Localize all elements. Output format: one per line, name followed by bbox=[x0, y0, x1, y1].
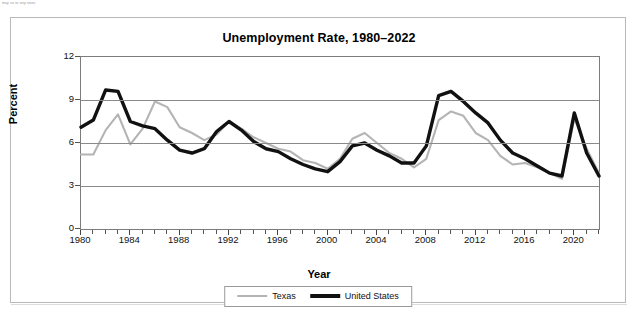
legend-label-united-states: United States bbox=[345, 291, 399, 301]
legend-item-texas[interactable]: Texas bbox=[237, 291, 296, 301]
x-axis-label-2020: 2020 bbox=[553, 234, 593, 245]
x-axis-labels: 1980198419881992199620002004200820122016… bbox=[80, 234, 600, 248]
gridline-6 bbox=[81, 143, 599, 144]
y-axis-title: Percent bbox=[7, 84, 19, 124]
y-axis-label-12: 12 bbox=[48, 50, 74, 61]
y-axis-label-9: 9 bbox=[48, 93, 74, 104]
x-axis-label-2008: 2008 bbox=[405, 234, 445, 245]
gridline-3 bbox=[81, 186, 599, 187]
legend-swatch-united-states-icon bbox=[310, 294, 340, 298]
chart-legend: Texas United States bbox=[224, 286, 412, 307]
series-line-texas bbox=[81, 101, 599, 178]
x-axis-label-1984: 1984 bbox=[109, 234, 149, 245]
x-axis-label-2004: 2004 bbox=[356, 234, 396, 245]
gridline-9 bbox=[81, 100, 599, 101]
y-axis-tick-9 bbox=[75, 99, 80, 100]
y-axis-label-6: 6 bbox=[48, 136, 74, 147]
x-axis-label-1996: 1996 bbox=[257, 234, 297, 245]
legend-label-texas: Texas bbox=[272, 291, 296, 301]
x-axis-label-1988: 1988 bbox=[159, 234, 199, 245]
y-axis-tick-12 bbox=[75, 56, 80, 57]
plot-area bbox=[80, 56, 600, 230]
y-axis-label-0: 0 bbox=[48, 222, 74, 233]
x-axis-label-2000: 2000 bbox=[307, 234, 347, 245]
legend-item-united-states[interactable]: United States bbox=[310, 291, 399, 301]
chart-title: Unemployment Rate, 1980–2022 bbox=[11, 31, 627, 45]
x-axis-label-1992: 1992 bbox=[208, 234, 248, 245]
x-axis-label-1980: 1980 bbox=[60, 234, 100, 245]
cropped-header-text: may us or any noos. bbox=[2, 1, 36, 7]
y-axis-tick-6 bbox=[75, 142, 80, 143]
y-axis-label-3: 3 bbox=[48, 179, 74, 190]
x-axis-label-2012: 2012 bbox=[455, 234, 495, 245]
chart-card: Unemployment Rate, 1980–2022 Percent 036… bbox=[10, 17, 626, 303]
y-axis-tick-0 bbox=[75, 228, 80, 229]
y-axis-tick-3 bbox=[75, 185, 80, 186]
screenshot-root: may us or any noos. Unemployment Rate, 1… bbox=[0, 0, 641, 316]
x-axis-label-2016: 2016 bbox=[504, 234, 544, 245]
legend-swatch-texas-icon bbox=[237, 295, 267, 297]
x-axis-title: Year bbox=[11, 268, 627, 280]
